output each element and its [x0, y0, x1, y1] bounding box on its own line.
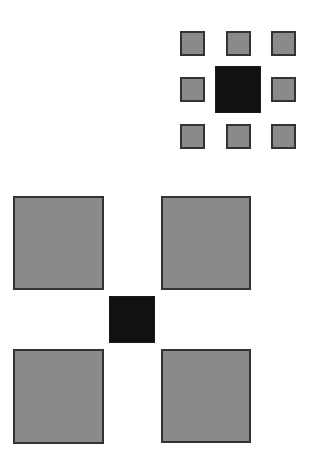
top-center-black-square	[215, 66, 261, 113]
bottom-large-surround-square	[13, 349, 104, 444]
top-small-surround-square	[271, 124, 296, 149]
top-small-surround-square	[226, 31, 251, 56]
top-small-surround-square	[226, 124, 251, 149]
bottom-large-surround-square	[13, 196, 104, 290]
bottom-large-surround-square	[161, 349, 251, 443]
top-small-surround-square	[180, 77, 205, 102]
top-small-surround-square	[180, 31, 205, 56]
top-small-surround-square	[180, 124, 205, 149]
top-small-surround-square	[271, 77, 296, 102]
bottom-center-black-square	[109, 296, 155, 343]
bottom-large-surround-square	[161, 196, 251, 290]
top-small-surround-square	[271, 31, 296, 56]
